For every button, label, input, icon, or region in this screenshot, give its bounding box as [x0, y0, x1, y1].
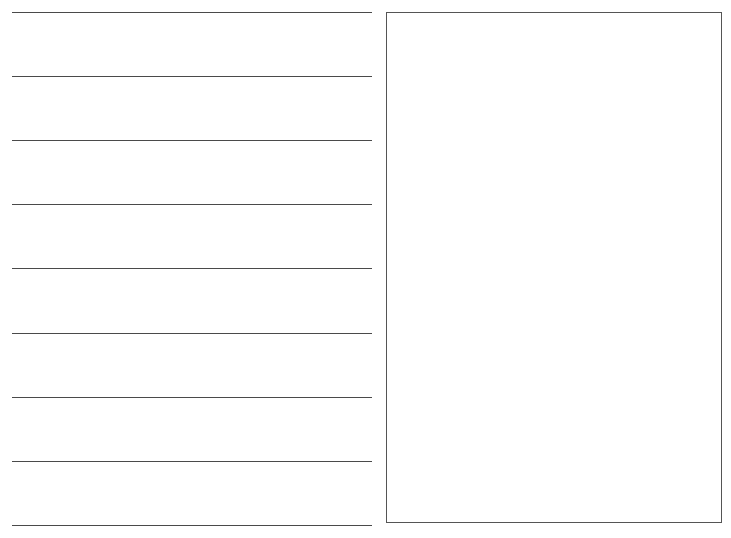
writing-line-7	[12, 397, 372, 398]
writing-line-8	[12, 461, 372, 462]
writing-line-2	[12, 76, 372, 77]
writing-line-6	[12, 333, 372, 334]
writing-line-9	[12, 525, 372, 526]
drawing-box	[386, 12, 722, 523]
writing-line-1	[12, 12, 372, 13]
writing-line-3	[12, 140, 372, 141]
writing-line-5	[12, 268, 372, 269]
writing-line-4	[12, 204, 372, 205]
writing-lines-area	[12, 0, 372, 538]
